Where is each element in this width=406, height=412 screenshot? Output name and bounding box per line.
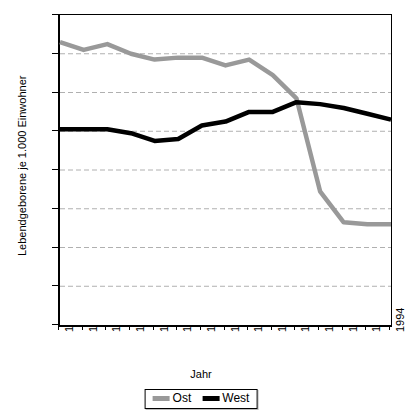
x-axis-title: Jahr: [0, 368, 402, 380]
legend-label: Ost: [173, 392, 192, 405]
legend-swatch-ost: [153, 396, 170, 401]
y-axis-title: Lebendgeborene je 1.000 Einwohner: [16, 76, 28, 256]
data-series-layer: [60, 15, 391, 325]
x-tick-label: 1994: [394, 290, 406, 332]
series-line-west: [60, 102, 391, 141]
legend-label: West: [222, 392, 249, 405]
legend-item-west[interactable]: West: [202, 392, 249, 405]
chart-legend: OstWest: [145, 389, 258, 409]
plot-area: [58, 14, 392, 327]
legend-swatch-west: [202, 396, 219, 401]
series-line-ost: [60, 42, 391, 224]
legend-item-ost[interactable]: Ost: [153, 392, 192, 405]
